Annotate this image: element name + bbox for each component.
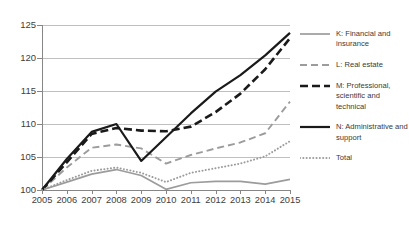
x-tick — [265, 190, 266, 194]
x-tick — [166, 190, 167, 194]
legend-item-l[interactable]: L: Real estate — [300, 59, 409, 71]
x-tick — [141, 190, 142, 194]
x-tick — [240, 190, 241, 194]
x-tick — [216, 190, 217, 194]
x-tick — [92, 190, 93, 194]
series-line-m — [42, 38, 290, 190]
legend-marker-k-icon — [300, 28, 330, 40]
x-tick — [116, 190, 117, 194]
line-chart: 100105110115120125 200520062007200820092… — [0, 0, 409, 226]
y-tick-label: 120 — [8, 53, 36, 63]
y-tick-label: 115 — [8, 86, 36, 96]
legend-label: Total — [336, 152, 352, 163]
legend-label: M: Professional, scientific and technica… — [336, 80, 409, 112]
legend-item-total[interactable]: Total — [300, 152, 409, 164]
x-tick — [191, 190, 192, 194]
legend-label: N: Administrative and support — [336, 121, 409, 143]
legend-item-k[interactable]: K: Financial and insurance — [300, 28, 409, 50]
legend-marker-total-icon — [300, 152, 330, 164]
legend-label: K: Financial and insurance — [336, 28, 409, 50]
series-lines — [42, 25, 290, 190]
series-line-k — [42, 170, 290, 190]
legend-item-m[interactable]: M: Professional, scientific and technica… — [300, 80, 409, 112]
x-tick — [67, 190, 68, 194]
legend-item-n[interactable]: N: Administrative and support — [300, 121, 409, 143]
x-tick-label: 2015 — [275, 196, 305, 205]
y-tick-label: 105 — [8, 152, 36, 162]
chart-legend: K: Financial and insuranceL: Real estate… — [300, 28, 409, 173]
legend-marker-l-icon — [300, 59, 330, 71]
legend-label: L: Real estate — [336, 59, 383, 70]
y-tick-label: 100 — [8, 185, 36, 195]
x-tick — [290, 190, 291, 194]
legend-marker-m-icon — [300, 80, 330, 92]
y-tick-label: 110 — [8, 119, 36, 129]
series-line-n — [42, 33, 290, 190]
y-tick-label: 125 — [8, 20, 36, 30]
legend-marker-n-icon — [300, 121, 330, 133]
